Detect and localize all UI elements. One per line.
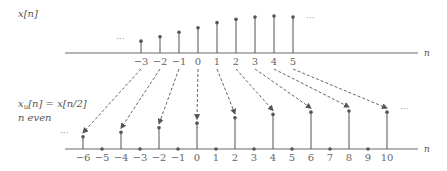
bottom-sample-dot xyxy=(195,121,199,125)
bottom-tick-label: −3 xyxy=(133,152,148,163)
bottom-sample-dot xyxy=(119,130,123,134)
bottom-tick-label: 8 xyxy=(346,152,352,163)
bottom-sample-dot xyxy=(347,109,351,113)
bottom-tick-label: 6 xyxy=(308,152,314,163)
top-tick-label: 1 xyxy=(214,56,220,67)
bottom-ellipsis-right: ··· xyxy=(400,104,409,114)
bottom-tick-label: 3 xyxy=(251,152,257,163)
bottom-zero-dot xyxy=(138,147,142,151)
top-tick-label: −3 xyxy=(134,56,149,67)
top-tick-label: −1 xyxy=(172,56,187,67)
bottom-tick-label: 5 xyxy=(289,152,295,163)
top-ellipsis-right: ··· xyxy=(306,13,315,23)
bottom-ellipsis-left: ··· xyxy=(60,128,69,138)
bottom-tick-label: 1 xyxy=(213,152,219,163)
bottom-tick-label: 9 xyxy=(365,152,371,163)
top-tick-label: 2 xyxy=(233,56,239,67)
bottom-label-rest: [n] = x[n/2] xyxy=(28,98,87,109)
top-sample-dot xyxy=(139,39,143,43)
top-ellipsis-left: ··· xyxy=(116,34,125,44)
top-sample-dot xyxy=(177,30,181,34)
bottom-tick-label: −6 xyxy=(76,152,91,163)
mapping-arrow xyxy=(274,69,349,107)
top-tick-label: 4 xyxy=(271,56,277,67)
mapping-arrow xyxy=(217,69,235,114)
mapping-arrow xyxy=(197,69,198,119)
bottom-sample-dot xyxy=(81,135,85,139)
bottom-zero-dot xyxy=(176,147,180,151)
bottom-tick-label: −1 xyxy=(171,152,186,163)
bottom-tick-label: 7 xyxy=(327,152,333,163)
mapping-arrow xyxy=(83,69,141,133)
top-sample-dot xyxy=(291,15,295,19)
bottom-signal-label: xu[n] = x[n/2] xyxy=(18,98,87,111)
top-sample-dot xyxy=(234,18,238,22)
bottom-tick-label: 10 xyxy=(381,152,394,163)
bottom-zero-dot xyxy=(366,147,370,151)
top-sample-dot xyxy=(272,14,276,18)
bottom-sample-dot xyxy=(271,113,275,117)
bottom-sample-dot xyxy=(385,110,389,114)
upsampling-diagram: x[n] n ··· ··· −3−2−1012345 xu[n] = x[n/… xyxy=(0,0,447,171)
bottom-sample-dot xyxy=(157,126,161,130)
mapping-arrow xyxy=(255,69,311,108)
top-sample-dot xyxy=(253,15,257,19)
bottom-zero-dot xyxy=(214,147,218,151)
top-tick-label: 5 xyxy=(290,56,296,67)
top-axis-label: n xyxy=(424,48,430,58)
bottom-tick-label: −2 xyxy=(152,152,167,163)
bottom-sample-dot xyxy=(309,110,313,114)
bottom-sample-dot xyxy=(233,116,237,120)
bottom-zero-dot xyxy=(328,147,332,151)
top-tick-label: 0 xyxy=(195,56,201,67)
mapping-arrow xyxy=(293,69,387,108)
bottom-tick-label: 0 xyxy=(194,152,200,163)
bottom-tick-label: 2 xyxy=(232,152,238,163)
bottom-zero-dot xyxy=(100,147,104,151)
mapping-arrow xyxy=(121,69,160,128)
mapping-arrow xyxy=(159,69,179,124)
mapping-arrow xyxy=(236,69,273,110)
top-tick-label: −2 xyxy=(153,56,168,67)
top-sample-dot xyxy=(158,35,162,39)
top-tick-label: 3 xyxy=(252,56,258,67)
bottom-zero-dot xyxy=(252,147,256,151)
bottom-tick-label: −5 xyxy=(95,152,110,163)
bottom-signal-condition: n even xyxy=(18,112,52,123)
top-sample-dot xyxy=(196,26,200,30)
bottom-tick-label: −4 xyxy=(114,152,129,163)
bottom-zero-dot xyxy=(290,147,294,151)
bottom-tick-label: 4 xyxy=(270,152,276,163)
top-signal-label: x[n] xyxy=(18,8,38,19)
bottom-axis-label: n xyxy=(424,144,430,154)
top-sample-dot xyxy=(215,21,219,25)
